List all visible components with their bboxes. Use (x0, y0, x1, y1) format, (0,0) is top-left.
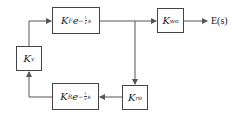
forward-exp-sign: − (79, 18, 84, 24)
kwo-symbol: K (162, 16, 169, 26)
kro-block: Kro (122, 85, 148, 110)
forward-exp-fraction: lv (85, 16, 87, 25)
kwo-subscript: wo (170, 18, 179, 24)
kv-symbol: K (24, 54, 31, 64)
feedback-symbol: K (60, 92, 67, 102)
feedback-exp-fraction: lv (84, 92, 86, 101)
feedback-delay-block: KRe−lvs (52, 83, 99, 110)
kro-symbol: K (128, 93, 135, 103)
forward-exp-var: s (88, 18, 91, 24)
feedback-exp-var: s (88, 94, 91, 100)
output-label: E(s) (211, 15, 228, 26)
kwo-block: Kwo (157, 8, 184, 33)
feedback-exp-den: v (84, 97, 86, 101)
kv-subscript: v (31, 56, 34, 62)
forward-exp-den: v (85, 21, 87, 25)
kv-to-forward-line (29, 21, 51, 46)
kro-subscript: ro (136, 95, 142, 101)
kv-block: Kv (16, 46, 42, 71)
forward-delay-block: KFe−lvs (52, 7, 100, 34)
feedback-exp-sign: − (78, 94, 83, 100)
feedback-to-kv-line (29, 72, 52, 97)
